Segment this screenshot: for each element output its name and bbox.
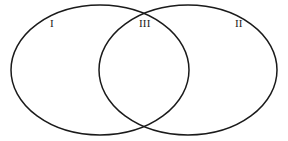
region-label-two: II — [235, 18, 243, 29]
venn-diagram: I III II — [0, 0, 288, 141]
region-label-three: III — [139, 18, 151, 29]
region-label-one: I — [50, 18, 54, 29]
right-set-ellipse — [99, 5, 277, 135]
left-set-ellipse — [11, 5, 189, 135]
